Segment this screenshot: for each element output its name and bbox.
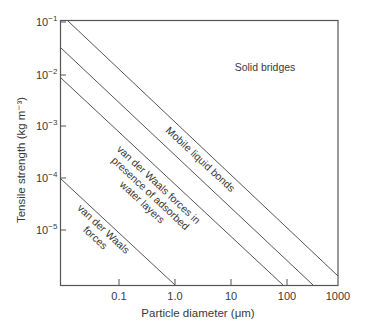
y-tick-label: 10−5 xyxy=(36,222,58,236)
label-vdw-forces: van der Waals forces xyxy=(67,202,132,265)
x-axis: 0.1 1.0 10 100 1000 xyxy=(111,279,350,302)
boundary-line-water-upper xyxy=(61,48,313,285)
svg-text:presence of adsorbed: presence of adsorbed xyxy=(109,154,192,232)
boundary-line-water-lower xyxy=(61,78,283,285)
label-solid-bridges: Solid bridges xyxy=(235,61,296,73)
y-tick-label: 10−4 xyxy=(36,170,58,184)
x-tick-label: 0.1 xyxy=(111,290,126,302)
y-axis: 10−1 10−2 10−3 10−4 10−5 xyxy=(36,14,66,236)
y-tick-label: 10−3 xyxy=(36,118,58,132)
x-tick-label: 10 xyxy=(225,290,237,302)
x-tick-label: 100 xyxy=(278,290,296,302)
y-axis-title: Tensile strength (kg m⁻³) xyxy=(15,97,27,223)
x-tick-label: 1.0 xyxy=(167,290,182,302)
y-tick-label: 10−1 xyxy=(36,14,58,28)
tensile-strength-chart: 10−1 10−2 10−3 10−4 10−5 0.1 1.0 10 100 … xyxy=(0,0,369,331)
x-axis-title: Particle diameter (μm) xyxy=(141,307,255,319)
x-tick-label: 1000 xyxy=(326,290,350,302)
y-tick-label: 10−2 xyxy=(36,67,58,81)
